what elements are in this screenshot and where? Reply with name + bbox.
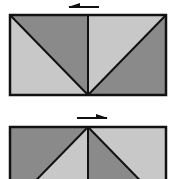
- arrow-right-icon: [77, 114, 108, 119]
- arrow-left-icon: [68, 3, 99, 8]
- top-panel: [10, 15, 166, 95]
- diagram-canvas: [0, 0, 173, 179]
- bottom-panel: [10, 127, 166, 179]
